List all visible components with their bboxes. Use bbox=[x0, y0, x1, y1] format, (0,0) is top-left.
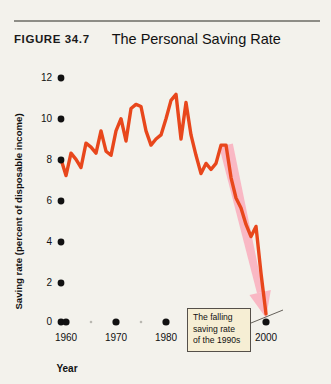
ytick-label-2: 2 bbox=[30, 277, 52, 288]
ytick-label-12: 12 bbox=[30, 72, 52, 83]
annotation-callout: The falling saving rate of the 1990s bbox=[187, 308, 251, 352]
figure-container: FIGURE 34.7 The Personal Saving Rate bbox=[0, 0, 331, 384]
xtick-label-1980: 1980 bbox=[146, 332, 186, 343]
figure-number: FIGURE 34.7 bbox=[14, 33, 90, 45]
ytick-label-0: 0 bbox=[30, 316, 52, 327]
y-axis-title: Saving rate (percent of disposable incom… bbox=[13, 112, 24, 312]
x-axis-title: Year bbox=[46, 363, 88, 374]
chart-plot-area: 12 10 8 6 4 2 0 1960 1970 1980 1990 2000… bbox=[0, 56, 331, 384]
annotation-line-3: of the 1990s bbox=[193, 335, 246, 347]
xtick-label-1960: 1960 bbox=[46, 332, 86, 343]
ytick-label-4: 4 bbox=[30, 236, 52, 247]
header-divider bbox=[14, 20, 320, 22]
ytick-label-10: 10 bbox=[30, 113, 52, 124]
figure-header: FIGURE 34.7 The Personal Saving Rate bbox=[14, 26, 320, 52]
xtick-label-1970: 1970 bbox=[96, 332, 136, 343]
ytick-label-6: 6 bbox=[30, 195, 52, 206]
figure-title: The Personal Saving Rate bbox=[112, 31, 281, 47]
xtick-label-2000: 2000 bbox=[246, 332, 286, 343]
ytick-label-8: 8 bbox=[30, 154, 52, 165]
annotation-line-1: The falling bbox=[193, 312, 246, 324]
annotation-line-2: saving rate bbox=[193, 324, 246, 336]
